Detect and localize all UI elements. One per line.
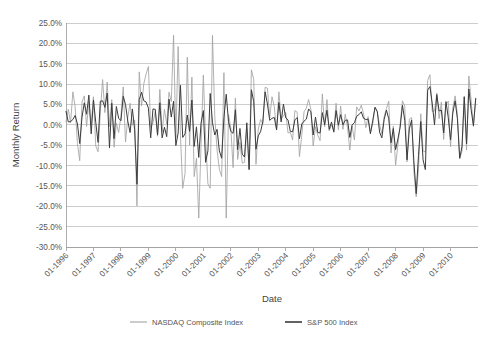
legend-label-nasdaq: NASDAQ Composite Index bbox=[152, 318, 243, 327]
y-tick-label: 5.0% bbox=[43, 100, 62, 109]
y-tick-label: 20.0% bbox=[39, 39, 62, 48]
y-tick-label: 0.0% bbox=[43, 121, 62, 130]
y-tick-label: 15.0% bbox=[39, 60, 62, 69]
y-tick-label: 25.0% bbox=[39, 19, 62, 28]
y-tick-label: -10.0% bbox=[36, 162, 62, 171]
y-tick-label: -15.0% bbox=[36, 182, 62, 191]
y-tick-label: -25.0% bbox=[36, 223, 62, 232]
y-axis-title: Monthly Return bbox=[10, 103, 21, 167]
monthly-return-line-chart: 25.0%20.0%15.0%10.0%5.0%0.0%-5.0%-10.0%-… bbox=[0, 0, 495, 341]
legend-label-sp500: S&P 500 Index bbox=[307, 318, 358, 327]
y-tick-label: -30.0% bbox=[36, 243, 62, 252]
chart-canvas: 25.0%20.0%15.0%10.0%5.0%0.0%-5.0%-10.0%-… bbox=[0, 0, 495, 341]
chart-background bbox=[0, 0, 495, 341]
y-tick-label: -5.0% bbox=[41, 141, 62, 150]
y-tick-label: 10.0% bbox=[39, 80, 62, 89]
y-tick-label: -20.0% bbox=[36, 202, 62, 211]
x-axis-title: Date bbox=[262, 293, 282, 304]
